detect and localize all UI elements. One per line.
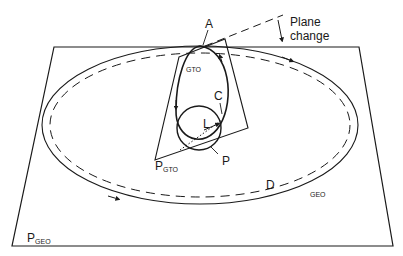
label-gto-plane: PGTO bbox=[155, 159, 179, 173]
label-perigee: P bbox=[222, 154, 230, 168]
label-circ-point: C bbox=[214, 89, 223, 103]
circ-leader bbox=[220, 103, 222, 114]
drift-orbit bbox=[50, 53, 350, 197]
geo-direction-arrow bbox=[108, 196, 118, 199]
label-gto-orbit: GTO bbox=[186, 66, 202, 73]
label-plane-change-2: change bbox=[290, 29, 330, 43]
orbit-transfer-diagram: A Plane change GTO C L P PGTO D GEO PGEO bbox=[0, 0, 403, 256]
plane-change-arrow bbox=[278, 20, 282, 40]
label-drift: D bbox=[266, 178, 275, 192]
plane-change-line bbox=[205, 15, 283, 46]
gto-plane bbox=[155, 39, 248, 160]
label-plane-change-1: Plane bbox=[290, 15, 321, 29]
geo-plane bbox=[12, 47, 393, 246]
perigee-leader bbox=[210, 146, 218, 154]
label-apogee: A bbox=[205, 17, 213, 31]
label-launch: L bbox=[203, 117, 210, 131]
label-geo-orbit: GEO bbox=[310, 191, 326, 198]
geo-direction-arrow bbox=[282, 57, 292, 61]
apogee-leader bbox=[203, 30, 208, 45]
parking-orbit bbox=[177, 106, 221, 150]
label-geo-plane: PGEO bbox=[27, 231, 51, 245]
